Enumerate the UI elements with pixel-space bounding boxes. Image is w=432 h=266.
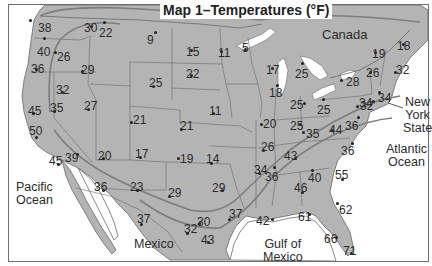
station-temperature: 26: [366, 67, 379, 79]
station-dot: [322, 98, 325, 101]
station-temperature: 34: [378, 92, 391, 104]
station-temperature: 9: [147, 34, 154, 46]
station-temperature: 29: [81, 64, 94, 76]
station-temperature: 62: [339, 204, 352, 216]
label-gulf-of-mexico: Gulf of Mexico: [263, 238, 303, 264]
station-dot: [273, 166, 276, 169]
station-dot: [154, 31, 157, 34]
station-temperature: 30: [84, 22, 97, 34]
station-temperature: 37: [229, 208, 242, 220]
station-temperature: 45: [49, 155, 62, 167]
station-temperature: 32: [56, 84, 69, 96]
station-temperature: 55: [335, 169, 348, 181]
station-temperature: 29: [212, 182, 225, 194]
station-temperature: 22: [186, 68, 199, 80]
station-temperature: 39: [65, 152, 78, 164]
map-title: Map 1–Temperatures (°F): [160, 2, 332, 19]
label-mexico: Mexico: [134, 238, 174, 251]
station-temperature: 36: [94, 181, 107, 193]
station-temperature: 66: [324, 233, 337, 245]
station-temperature: 35: [50, 102, 63, 114]
station-temperature: 29: [168, 187, 181, 199]
station-temperature: 23: [130, 181, 143, 193]
station-temperature: 50: [29, 125, 42, 137]
station-dot: [43, 37, 46, 40]
station-temperature: 37: [137, 213, 150, 225]
label-pacific-ocean: Pacific Ocean: [16, 181, 53, 207]
station-dot: [303, 102, 306, 105]
label-new-york-state: New York State: [403, 96, 432, 135]
station-temperature: 43: [201, 234, 214, 246]
station-temperature: 27: [84, 100, 97, 112]
station-temperature: 42: [256, 215, 269, 227]
station-temperature: 11: [209, 105, 221, 117]
station-temperature: 11: [218, 47, 230, 59]
station-temperature: 32: [184, 223, 197, 235]
station-dot: [301, 62, 304, 65]
station-temperature: 25: [290, 120, 303, 132]
station-temperature: 15: [186, 46, 199, 58]
station-temperature: 25: [295, 68, 308, 80]
label-canada: Canada: [322, 28, 368, 41]
station-temperature: 19: [372, 48, 385, 60]
station-temperature: 46: [294, 182, 307, 194]
temperature-map: Map 1–Temperatures (°F) Canada Pacific O…: [0, 0, 432, 266]
station-temperature: 36: [265, 171, 278, 183]
station-temperature: 25: [149, 77, 162, 89]
station-temperature: 14: [206, 153, 219, 165]
station-temperature: 30: [197, 216, 210, 228]
station-temperature: 40: [308, 172, 321, 184]
station-temperature: 36: [31, 63, 44, 75]
station-dot: [271, 218, 274, 221]
station-temperature: 21: [133, 114, 146, 126]
station-temperature: 28: [346, 76, 359, 88]
label-atlantic-ocean: Atlantic Ocean: [386, 143, 427, 169]
station-temperature: 35: [306, 128, 319, 140]
station-dot: [340, 79, 343, 82]
station-temperature: 43: [284, 150, 297, 162]
station-temperature: 71: [343, 245, 356, 257]
station-temperature: 18: [269, 87, 282, 99]
map-frame: [8, 4, 429, 262]
station-dot: [29, 19, 32, 22]
station-temperature: 25: [317, 104, 330, 116]
station-temperature: 25: [290, 99, 303, 111]
station-temperature: 26: [261, 141, 274, 153]
station-dot: [302, 131, 305, 134]
station-dot: [372, 100, 375, 103]
station-temperature: 45: [28, 105, 41, 117]
station-dot: [103, 21, 106, 24]
station-temperature: 18: [397, 40, 410, 52]
station-temperature: 44: [329, 124, 342, 136]
station-temperature: 38: [38, 22, 51, 34]
station-temperature: 19: [180, 153, 193, 165]
station-temperature: 20: [98, 150, 111, 162]
station-temperature: 22: [99, 27, 112, 39]
station-temperature: 20: [263, 118, 276, 130]
station-temperature: 61: [298, 211, 311, 223]
station-temperature: 26: [57, 51, 70, 63]
station-temperature: 5: [242, 42, 249, 54]
station-temperature: 36: [345, 120, 358, 132]
station-temperature: 36: [341, 145, 354, 157]
station-temperature: 40: [37, 46, 50, 58]
station-temperature: 34: [359, 97, 372, 109]
station-temperature: 17: [266, 64, 279, 76]
station-temperature: 17: [135, 148, 148, 160]
station-temperature: 32: [396, 64, 409, 76]
station-temperature: 21: [180, 120, 193, 132]
